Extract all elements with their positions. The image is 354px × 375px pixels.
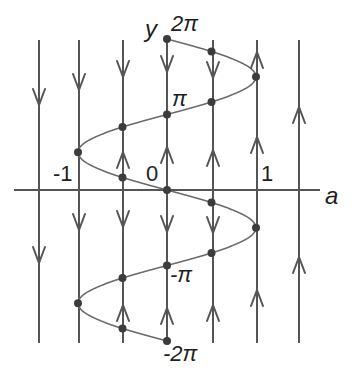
equilibrium-dot: [119, 324, 127, 332]
equilibrium-dot: [208, 249, 216, 257]
a-tick-0: 0: [146, 163, 158, 185]
equilibrium-dot: [252, 224, 260, 232]
background: [0, 0, 354, 375]
equilibrium-dot: [252, 73, 260, 81]
equilibrium-dot: [163, 35, 171, 43]
equilibrium-dot: [208, 48, 216, 56]
equilibrium-dot: [163, 111, 171, 119]
bifurcation-diagram: [0, 0, 354, 375]
equilibrium-dot: [119, 123, 127, 131]
a-tick-1: 1: [261, 163, 273, 185]
y-tick-2pi: 2π: [171, 13, 198, 35]
equilibrium-dot: [163, 186, 171, 194]
a-tick-neg1: -1: [53, 163, 73, 185]
y-tick-neg-pi: -π: [170, 264, 192, 286]
equilibrium-dot: [74, 148, 82, 156]
y-tick-neg-2pi: -2π: [163, 343, 197, 365]
equilibrium-dot: [208, 98, 216, 106]
y-axis-label: y: [145, 17, 157, 41]
equilibrium-dot: [208, 199, 216, 207]
y-tick-pi: π: [172, 88, 187, 110]
a-axis-label: a: [325, 184, 338, 208]
equilibrium-dot: [119, 274, 127, 282]
equilibrium-dot: [119, 173, 127, 181]
equilibrium-dot: [74, 299, 82, 307]
